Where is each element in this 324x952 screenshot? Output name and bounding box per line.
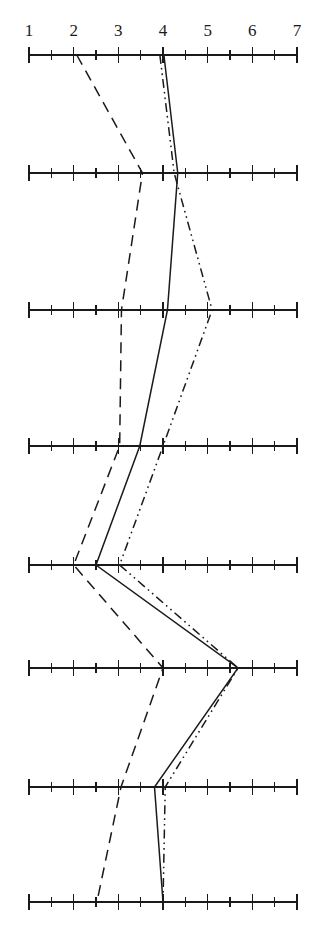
axis-row-1 [29,47,297,63]
axis-row-2 [29,165,297,181]
series-layer [74,55,238,902]
axis-row-5 [29,557,297,573]
axis-row-4 [29,438,297,454]
series-dashed [74,55,163,902]
axis-row-7 [29,779,297,795]
axes-layer [29,47,297,910]
profile-chart: 1234567 [0,0,324,952]
series-solid [96,55,238,902]
axis-row-3 [29,302,297,318]
series-dash-dot-dot [120,55,238,902]
chart-plot-area [0,0,324,952]
